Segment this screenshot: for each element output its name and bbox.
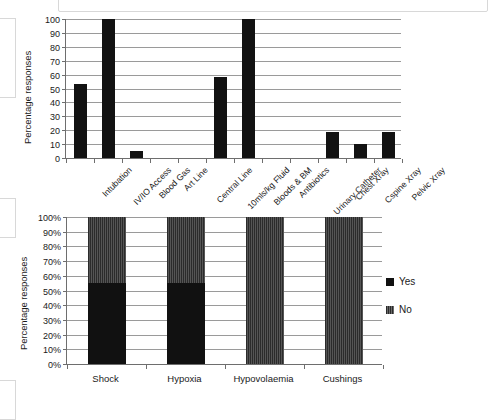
- scan-artifact-frame-top: [58, 0, 488, 12]
- bar: [102, 19, 115, 158]
- y-axis-tick-mark: [63, 291, 67, 292]
- legend-item-label: Yes: [399, 276, 415, 287]
- gridline: [66, 89, 401, 90]
- y-axis-tick-label: 40%: [43, 301, 61, 311]
- x-axis-tick-mark: [383, 365, 384, 369]
- chart-legend: YesNo: [386, 276, 415, 332]
- gridline: [66, 116, 401, 117]
- y-axis-tick-mark: [63, 349, 67, 350]
- y-axis-tick-mark: [62, 144, 66, 145]
- y-axis-tick-label: 100%: [38, 213, 61, 223]
- stacked-bar-segment: [325, 217, 363, 364]
- y-axis-tick-label: 0%: [48, 360, 61, 370]
- y-axis-tick-mark: [63, 320, 67, 321]
- y-axis-tick-label: 0: [55, 154, 60, 164]
- x-axis-tick-mark: [374, 159, 375, 163]
- y-axis-tick-mark: [62, 19, 66, 20]
- y-axis-tick-label: 70%: [43, 257, 61, 267]
- bar-chart-procedures: Percentage responses 1009080706050403020…: [0, 12, 431, 207]
- y-axis-title: Percentage responses: [22, 51, 33, 144]
- y-axis-tick-label: 10%: [43, 345, 61, 355]
- y-axis-tick-mark: [62, 33, 66, 34]
- gridline: [66, 47, 401, 48]
- y-axis-tick-mark: [63, 276, 67, 277]
- x-axis-tick-mark: [206, 159, 207, 163]
- y-axis-tick-label: 10: [50, 140, 60, 150]
- y-axis-tick-label: 60: [50, 71, 60, 81]
- x-axis-category-label: Hypovolaemia: [233, 373, 293, 384]
- y-axis-tick-label: 50%: [43, 287, 61, 297]
- y-axis-tick-label: 60%: [43, 272, 61, 282]
- x-axis-category-label: Intubation: [100, 165, 134, 199]
- bar: [326, 132, 339, 158]
- y-axis-tick-mark: [62, 75, 66, 76]
- plot-area: 100%90%80%70%60%50%40%30%20%10%0%: [66, 218, 382, 365]
- y-axis-tick-label: 80: [50, 43, 60, 53]
- stacked-bar-chart-diagnoses: Percentage responses 100%90%80%70%60%50%…: [0, 210, 431, 408]
- gridline: [66, 33, 401, 34]
- y-axis-tick-label: 30: [50, 112, 60, 122]
- y-axis-tick-mark: [62, 102, 66, 103]
- stacked-bar-segment: [167, 217, 205, 283]
- bar: [382, 132, 395, 158]
- bar: [74, 84, 87, 158]
- x-axis-tick-mark: [318, 159, 319, 163]
- y-axis-tick-mark: [63, 246, 67, 247]
- bar: [354, 144, 367, 158]
- x-axis-tick-mark: [66, 159, 67, 163]
- y-axis-tick-mark: [62, 47, 66, 48]
- y-axis-tick-label: 20: [50, 126, 60, 136]
- x-axis-category-label: Central Line: [215, 165, 255, 205]
- y-axis-tick-mark: [62, 130, 66, 131]
- y-axis-tick-label: 70: [50, 57, 60, 67]
- y-axis-title: Percentage responses: [18, 257, 29, 350]
- x-axis-tick-mark: [304, 365, 305, 369]
- y-axis-tick-label: 90: [50, 29, 60, 39]
- x-axis-category-label: Shock: [92, 373, 118, 384]
- gridline: [66, 130, 401, 131]
- y-axis-tick-mark: [62, 116, 66, 117]
- y-axis-tick-mark: [63, 261, 67, 262]
- legend-item: Yes: [386, 276, 415, 287]
- x-axis-tick-mark: [346, 159, 347, 163]
- stacked-bar-segment: [246, 217, 284, 364]
- stacked-bar-segment: [167, 283, 205, 364]
- x-axis-tick-mark: [402, 159, 403, 163]
- gridline: [66, 19, 401, 20]
- bar: [214, 77, 227, 158]
- gridline: [66, 61, 401, 62]
- x-axis-tick-mark: [234, 159, 235, 163]
- y-axis-tick-mark: [62, 89, 66, 90]
- bar: [242, 19, 255, 158]
- x-axis-tick-mark: [290, 159, 291, 163]
- gridline: [66, 102, 401, 103]
- y-axis-tick-label: 30%: [43, 316, 61, 326]
- x-axis-category-label: Hypoxia: [167, 373, 201, 384]
- legend-swatch-icon: [386, 306, 394, 314]
- y-axis-tick-label: 40: [50, 98, 60, 108]
- bar: [130, 151, 143, 158]
- x-axis-category-label: Cushings: [323, 373, 363, 384]
- y-axis-tick-mark: [63, 335, 67, 336]
- legend-swatch-icon: [386, 278, 394, 286]
- y-axis-tick-mark: [63, 217, 67, 218]
- y-axis-tick-mark: [63, 305, 67, 306]
- x-axis-tick-mark: [225, 365, 226, 369]
- x-axis-tick-mark: [262, 159, 263, 163]
- x-axis-tick-mark: [67, 365, 68, 369]
- stacked-bar-segment: [88, 283, 126, 364]
- y-axis-tick-mark: [63, 232, 67, 233]
- x-axis-tick-mark: [150, 159, 151, 163]
- legend-item: No: [386, 304, 415, 315]
- x-axis-tick-mark: [146, 365, 147, 369]
- y-axis-tick-mark: [62, 61, 66, 62]
- x-axis-tick-mark: [178, 159, 179, 163]
- x-axis-tick-mark: [122, 159, 123, 163]
- y-axis-tick-label: 50: [50, 85, 60, 95]
- y-axis-tick-label: 20%: [43, 331, 61, 341]
- gridline: [66, 144, 401, 145]
- legend-item-label: No: [399, 304, 412, 315]
- stacked-bar-segment: [88, 217, 126, 283]
- y-axis-tick-label: 100: [45, 15, 60, 25]
- y-axis-tick-label: 80%: [43, 242, 61, 252]
